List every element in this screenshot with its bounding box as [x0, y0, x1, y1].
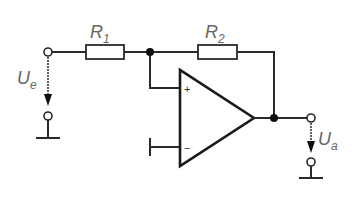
- input-terminal-top: [44, 48, 52, 56]
- label-ue: Ue: [17, 68, 37, 92]
- resistor-r2: [198, 45, 237, 59]
- plus-input-wire: [150, 52, 180, 88]
- ue-arrow-head-icon: [44, 94, 52, 106]
- ua-arrow-head-icon: [307, 141, 315, 153]
- label-r2: R2: [205, 22, 225, 46]
- feedback-wire: [237, 52, 274, 118]
- minus-sign: −: [184, 142, 190, 154]
- label-ua: Ua: [318, 129, 338, 153]
- junction-dot-output: [270, 114, 278, 122]
- opamp: [180, 70, 254, 166]
- plus-sign: +: [184, 83, 190, 95]
- output-terminal-bottom: [307, 158, 315, 166]
- output-terminal-top: [307, 114, 315, 122]
- circuit-diagram: + − R1 R2 Ue Ua: [0, 0, 363, 200]
- junction-dot-input: [146, 48, 154, 56]
- label-r1: R1: [90, 22, 110, 46]
- resistor-r1: [86, 45, 124, 59]
- input-terminal-bottom: [44, 112, 52, 120]
